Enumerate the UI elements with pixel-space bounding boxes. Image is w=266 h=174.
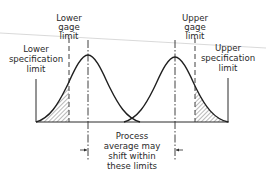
svg-text:these limits: these limits	[107, 161, 158, 171]
svg-text:specification: specification	[201, 53, 255, 63]
upper-gage-label: Upper gage limit	[182, 13, 208, 41]
svg-text:average may: average may	[104, 141, 161, 151]
process-average-note: Process average may shift within these l…	[104, 131, 161, 171]
svg-text:shift within: shift within	[108, 151, 155, 161]
svg-text:Upper: Upper	[215, 43, 241, 53]
right-normal-curve	[124, 57, 228, 122]
lower-spec-label: Lower specification limit	[9, 44, 63, 74]
upper-spec-label: Upper specification limit	[201, 43, 255, 73]
right-limit-arrow-icon	[176, 149, 183, 152]
svg-text:limit: limit	[186, 31, 206, 41]
svg-text:Process: Process	[116, 131, 149, 141]
diagram-canvas: Lower gage limit Upper gage limit Lower …	[0, 0, 266, 174]
svg-text:limit: limit	[60, 31, 80, 41]
lower-gage-label: Lower gage limit	[56, 13, 82, 41]
svg-text:limit: limit	[27, 64, 47, 74]
svg-text:specification: specification	[9, 54, 63, 64]
svg-text:limit: limit	[219, 63, 239, 73]
svg-text:Lower: Lower	[23, 44, 49, 54]
left-limit-arrow-icon	[80, 149, 87, 152]
